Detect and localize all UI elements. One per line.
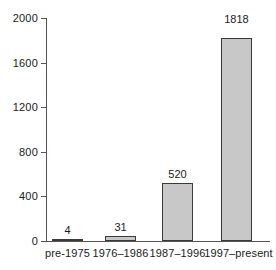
x-tick-label-1997-present: 1997–present xyxy=(203,247,274,259)
x-tick-label-pre-1975: pre-1975 xyxy=(42,247,93,259)
y-tick-label-1600: 1600 xyxy=(13,58,38,69)
y-tick-label-800: 800 xyxy=(19,147,38,158)
y-tick-mark-1600 xyxy=(41,63,46,64)
y-tick-mark-1200 xyxy=(41,107,46,108)
y-tick-label-0: 0 xyxy=(32,236,38,247)
y-tick-label-2000: 2000 xyxy=(13,13,38,24)
bar-pre-1975 xyxy=(52,239,83,241)
bar-1976-1986 xyxy=(105,236,136,241)
bar-value-pre-1975: 4 xyxy=(52,225,83,236)
x-tick-label-1976-1986: 1976–1986 xyxy=(91,247,150,259)
y-tick-label-1200: 1200 xyxy=(13,102,38,113)
bar-value-1997-present: 1818 xyxy=(218,14,255,25)
bar-value-1987-1996: 520 xyxy=(162,169,193,180)
y-tick-mark-800 xyxy=(41,152,46,153)
y-tick-mark-0 xyxy=(41,241,46,242)
bar-1987-1996 xyxy=(162,183,193,241)
bar-chart: 2000 1600 1200 800 400 0 4 pre-1975 31 1… xyxy=(0,0,276,270)
y-axis-line xyxy=(46,18,47,242)
x-axis-line xyxy=(46,241,270,242)
bar-value-1976-1986: 31 xyxy=(105,222,136,233)
y-tick-mark-400 xyxy=(41,196,46,197)
bar-1997-present xyxy=(221,38,252,241)
y-tick-mark-2000 xyxy=(41,18,46,19)
y-tick-label-400: 400 xyxy=(19,191,38,202)
x-tick-label-1987-1996: 1987–1996 xyxy=(148,247,207,259)
